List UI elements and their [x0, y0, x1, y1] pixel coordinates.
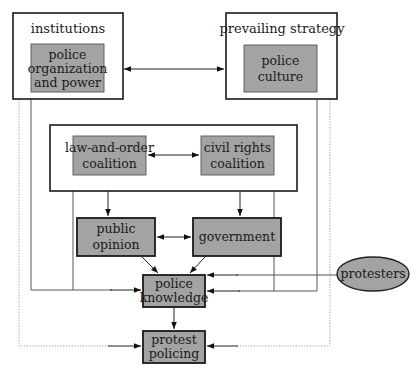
- frame-prevailing-strategy-title: prevailing strategy: [219, 21, 345, 36]
- node-protest-policing: protest policing: [143, 331, 205, 363]
- arrow-opinion-to-knowledge: [142, 257, 158, 273]
- node-text-line: knowledge: [140, 290, 209, 305]
- protest-policing-diagram: institutions prevailing strategy police …: [0, 0, 420, 373]
- node-police-knowledge: police knowledge: [140, 275, 209, 307]
- node-protesters: protesters: [337, 257, 409, 291]
- node-text-line: law-and-order: [65, 140, 154, 155]
- node-civil-rights-coalition: civil rights coalition: [201, 136, 274, 175]
- node-text-line: culture: [258, 69, 304, 84]
- arrow-government-to-knowledge: [190, 257, 205, 273]
- node-text-line: police: [262, 53, 300, 68]
- node-text-line: public: [96, 221, 135, 236]
- node-text-line: coalition: [82, 156, 137, 171]
- node-text-line: police: [155, 276, 193, 291]
- node-text-line: protesters: [340, 266, 405, 281]
- frame-institutions-title: institutions: [31, 21, 105, 36]
- node-text-line: government: [199, 229, 275, 244]
- node-law-and-order-coalition: law-and-order coalition: [65, 136, 154, 175]
- node-text-line: and power: [34, 75, 101, 90]
- node-text-line: opinion: [92, 237, 139, 252]
- node-text-line: organization: [28, 61, 108, 76]
- node-text-line: coalition: [210, 156, 265, 171]
- node-public-opinion: public opinion: [77, 218, 155, 256]
- node-police-organization-and-power: police organization and power: [28, 44, 108, 92]
- node-text-line: civil rights: [204, 140, 272, 155]
- node-text-line: police: [49, 47, 87, 62]
- node-text-line: policing: [149, 346, 200, 361]
- node-government: government: [193, 218, 281, 256]
- node-police-culture: police culture: [244, 45, 317, 92]
- node-text-line: protest: [151, 332, 196, 347]
